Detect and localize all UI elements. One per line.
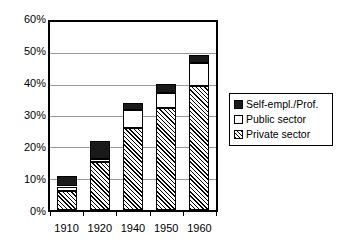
x-axis-tickmark [183, 212, 184, 216]
y-axis-tick-label: 0% [2, 206, 46, 217]
bar-group [156, 22, 176, 210]
x-axis-tickmark [150, 212, 151, 216]
plot-area [48, 20, 218, 212]
bar-segment-self-employed [123, 103, 143, 110]
y-axis-tick-label: 10% [2, 174, 46, 185]
bar-segment-private-sector [156, 108, 176, 210]
bar-group [123, 22, 143, 210]
stacked-bar-chart: 0%10%20%30%40%50%60% 1910192019401950196… [0, 0, 338, 252]
bar-segment-private-sector [90, 162, 110, 210]
legend-item: Public sector [234, 112, 329, 127]
y-axis-tick-label: 30% [2, 110, 46, 121]
bar-segment-public-sector [90, 159, 110, 163]
y-axis-tick-label: 40% [2, 78, 46, 89]
bar-segment-public-sector [156, 93, 176, 108]
y-axis: 0%10%20%30%40%50%60% [0, 0, 46, 252]
y-axis-tick-label: 60% [2, 14, 46, 25]
bar-segment-public-sector [189, 63, 209, 86]
legend-item-label: Self-empl./Prof. [246, 99, 318, 110]
x-axis-tickmark [216, 212, 217, 216]
white-square-icon [234, 115, 243, 124]
bar-group [189, 22, 209, 210]
legend-item: Private sector [234, 127, 329, 142]
bar-segment-private-sector [123, 128, 143, 210]
plot-inner [50, 22, 216, 210]
bar-segment-public-sector [57, 187, 77, 192]
bar-segment-private-sector [189, 86, 209, 210]
x-axis-tickmark [50, 212, 51, 216]
bar-segment-private-sector [57, 191, 77, 210]
x-axis-tick-label: 1950 [150, 222, 183, 234]
x-axis-tickmark [83, 212, 84, 216]
bar-segment-self-employed [189, 55, 209, 63]
bar-group [90, 22, 110, 210]
x-axis-tickmarks [48, 212, 218, 218]
legend-item-label: Public sector [246, 114, 306, 125]
bar-segment-self-employed [156, 84, 176, 93]
bar-group [57, 22, 77, 210]
bar-segment-self-employed [90, 141, 110, 159]
x-axis-tick-label: 1920 [83, 222, 116, 234]
hatched-square-icon [234, 130, 243, 139]
x-axis-tick-label: 1960 [183, 222, 216, 234]
x-axis-tick-label: 1940 [116, 222, 149, 234]
chart-legend: Self-empl./Prof.Public sectorPrivate sec… [229, 93, 333, 146]
y-axis-tick-label: 50% [2, 46, 46, 57]
bar-segment-public-sector [123, 110, 143, 128]
legend-item-label: Private sector [246, 129, 310, 140]
bar-segment-self-employed [57, 176, 77, 186]
x-axis: 19101920194019501960 [48, 222, 218, 238]
y-axis-tick-label: 20% [2, 142, 46, 153]
black-square-icon [234, 100, 243, 109]
legend-item: Self-empl./Prof. [234, 97, 329, 112]
x-axis-tickmark [116, 212, 117, 216]
x-axis-tick-label: 1910 [50, 222, 83, 234]
